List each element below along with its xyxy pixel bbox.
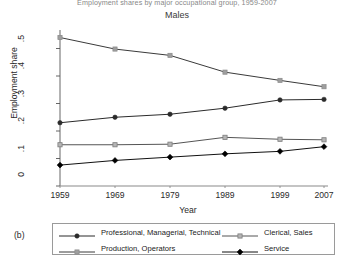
data-point-service-3 (222, 151, 228, 157)
series-clerical-sales-line (60, 137, 324, 144)
series-production-operators (58, 35, 326, 88)
legend: Professional, Managerial, TechnicalCleri… (52, 223, 335, 255)
legend-item-professional-managerial-technical[interactable]: Professional, Managerial, Technical (53, 227, 216, 237)
x-tick-label-5: 2007 (299, 190, 349, 200)
figure-panel-b: Employment shares by major occupational … (0, 0, 354, 269)
legend-label-production-operators: Production, Operators (101, 244, 175, 253)
data-point-service-0 (237, 249, 243, 255)
legend-item-production-operators[interactable]: Production, Operators (53, 243, 216, 253)
legend-item-service[interactable]: Service (216, 243, 336, 253)
data-point-professional-managerial-technical-4 (278, 98, 282, 102)
data-point-clerical-sales-4 (278, 137, 282, 141)
y-tick-label-1: .1 (16, 145, 26, 171)
series-professional-managerial-technical-line (60, 99, 324, 122)
legend-item-clerical-sales[interactable]: Clerical, Sales (216, 227, 336, 237)
legend-marker-service-icon (221, 243, 259, 253)
x-tick-label-1: 1969 (90, 190, 140, 200)
legend-marker-professional-managerial-technical-icon (58, 227, 96, 237)
data-point-clerical-sales-0 (238, 234, 242, 238)
y-tick-label-3: .3 (16, 90, 26, 116)
data-point-production-operators-5 (322, 85, 326, 89)
x-tick-label-4: 1999 (255, 190, 305, 200)
y-tick-label-5: .5 (16, 35, 26, 61)
series-clerical-sales (58, 135, 326, 147)
x-tick-label-2: 1979 (145, 190, 195, 200)
data-point-production-operators-2 (168, 53, 172, 57)
legend-label-clerical-sales: Clerical, Sales (264, 228, 313, 237)
panel-label: (b) (14, 230, 25, 240)
x-tick-label-0: 1959 (35, 190, 85, 200)
x-tick-label-3: 1989 (200, 190, 250, 200)
data-point-clerical-sales-3 (223, 135, 227, 139)
data-point-service-4 (277, 148, 283, 154)
series-production-operators-line (60, 38, 324, 87)
data-point-clerical-sales-2 (168, 142, 172, 146)
legend-label-service: Service (264, 244, 289, 253)
data-point-production-operators-3 (223, 70, 227, 74)
series-professional-managerial-technical (58, 97, 326, 125)
line-chart-canvas (44, 28, 332, 188)
legend-marker-production-operators-icon (58, 243, 96, 253)
data-point-clerical-sales-5 (322, 138, 326, 142)
data-point-professional-managerial-technical-3 (223, 106, 227, 110)
data-point-clerical-sales-0 (58, 143, 62, 147)
x-axis-label: Year (44, 205, 332, 215)
legend-marker-clerical-sales-icon (221, 227, 259, 237)
plot-area (44, 28, 332, 188)
y-tick-label-0: 0 (16, 172, 26, 198)
data-point-professional-managerial-technical-0 (58, 121, 62, 125)
y-tick-label-2: .2 (16, 117, 26, 143)
data-point-professional-managerial-technical-5 (322, 97, 326, 101)
data-point-professional-managerial-technical-1 (113, 115, 117, 119)
data-point-production-operators-0 (58, 35, 62, 39)
data-point-clerical-sales-1 (113, 143, 117, 147)
data-point-production-operators-4 (278, 78, 282, 82)
data-point-professional-managerial-technical-2 (168, 112, 172, 116)
data-point-service-5 (321, 144, 327, 150)
data-point-production-operators-0 (75, 250, 79, 254)
figure-subtitle: Males (0, 10, 354, 20)
data-point-service-0 (57, 162, 63, 168)
data-point-service-2 (167, 154, 173, 160)
data-point-professional-managerial-technical-0 (75, 234, 79, 238)
series-service-line (60, 147, 324, 165)
data-point-service-1 (112, 158, 118, 164)
y-tick-label-4: .4 (16, 62, 26, 88)
legend-label-professional-managerial-technical: Professional, Managerial, Technical (101, 228, 220, 237)
figure-main-title: Employment shares by major occupational … (0, 0, 354, 7)
series-service (57, 144, 327, 168)
data-point-production-operators-1 (113, 47, 117, 51)
